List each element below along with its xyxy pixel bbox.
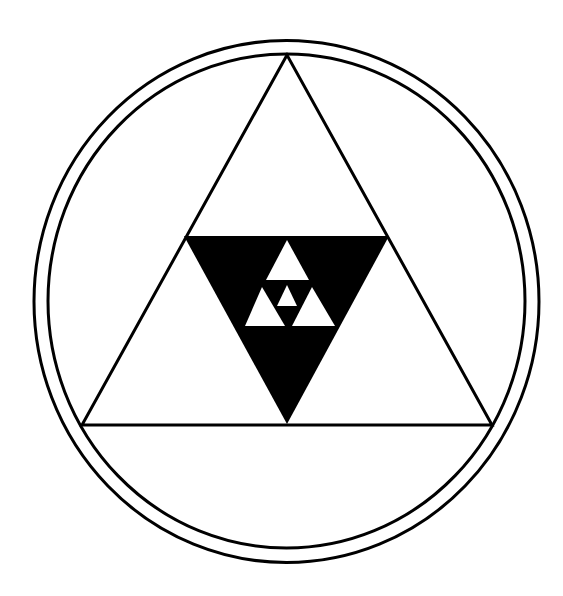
diagram-svg (0, 0, 563, 596)
triangle-circle-diagram (0, 0, 563, 596)
